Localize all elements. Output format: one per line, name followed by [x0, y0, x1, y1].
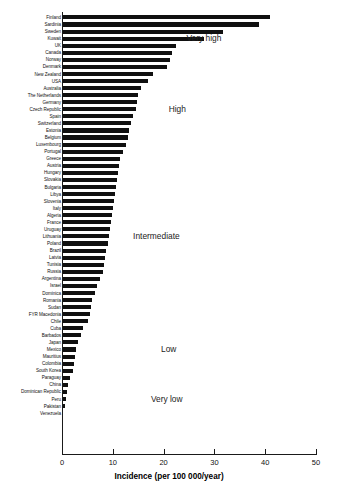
bar-row: Algeria [0, 212, 338, 219]
bar [62, 234, 109, 238]
x-axis-tick [113, 449, 114, 455]
bar-row: Greece [0, 155, 338, 162]
bar-row: The Netherlands [0, 92, 338, 99]
bar-category-label: Kuwait [48, 35, 62, 42]
bar-row: Belgium [0, 134, 338, 141]
bar-row: Luxembourg [0, 141, 338, 148]
bar-category-label: Switzerland [38, 120, 61, 127]
bar-category-label: Estonia [46, 127, 61, 134]
bar-category-label: Denmark [43, 63, 61, 70]
bar-row: Brazil [0, 247, 338, 254]
bar-category-label: Sweden [45, 28, 61, 35]
annotation-label: High [169, 104, 186, 114]
bar-category-label: Australia [44, 85, 61, 92]
bar-row: Sudan [0, 304, 338, 311]
bar [62, 164, 119, 168]
bar-category-label: Israel [50, 282, 61, 289]
bar-category-label: Bulgaria [45, 184, 61, 191]
bar-category-label: Canada [45, 49, 61, 56]
bar [62, 298, 92, 302]
bar-category-label: Italy [53, 205, 61, 212]
bar-category-label: Mauritius [43, 353, 61, 360]
annotation-label: Very low [151, 394, 183, 404]
bar [62, 100, 137, 104]
bar-category-label: FYR Macedonia [29, 311, 61, 318]
bar-category-label: Hungary [44, 169, 61, 176]
bar [62, 65, 167, 69]
bar-category-label: Romania [43, 297, 61, 304]
bar-row: Finland [0, 14, 338, 21]
bar-category-label: UK [55, 42, 61, 49]
bar [62, 263, 104, 267]
bar-category-label: Chile [51, 318, 61, 325]
bar [62, 58, 170, 62]
bar-row: Chile [0, 318, 338, 325]
bar-category-label: Slovenia [44, 198, 61, 205]
bar-category-label: Czech Republic [30, 106, 61, 113]
bar-category-label: France [47, 219, 61, 226]
bar-category-label: Belgium [45, 134, 61, 141]
bar-row: Pakistan [0, 403, 338, 410]
annotation-label: Very high [186, 33, 221, 43]
x-axis-tick [164, 449, 165, 455]
bar [62, 347, 76, 351]
bar [62, 326, 83, 330]
bar-row: Slovakia [0, 176, 338, 183]
x-axis-tick-label: 50 [301, 458, 331, 467]
bar [62, 107, 136, 111]
bar-category-label: Slovakia [44, 176, 61, 183]
bar [62, 114, 133, 118]
bar-category-label: Greece [46, 155, 61, 162]
bar [62, 22, 259, 26]
bar-category-label: Paraguay [42, 374, 61, 381]
bar [62, 150, 123, 154]
bar-category-label: Japan [49, 339, 61, 346]
bar [62, 319, 88, 323]
bar [62, 355, 75, 359]
bar-category-label: Venezuela [40, 410, 61, 417]
bar-row: Cuba [0, 325, 338, 332]
x-axis-tick [214, 449, 215, 455]
bar-row: Paraguay [0, 374, 338, 381]
x-axis-tick-label: 40 [250, 458, 280, 467]
bar-category-label: Barbados [42, 332, 61, 339]
bar [62, 185, 116, 189]
x-axis-tick-label: 10 [98, 458, 128, 467]
bar [62, 15, 270, 19]
bar [62, 79, 148, 83]
plot-area: FinlandSardiniaSwedenKuwaitUKCanadaNorwa… [0, 0, 338, 493]
bar-category-label: Mexico [47, 346, 61, 353]
bar-category-label: Luxembourg [36, 141, 61, 148]
bar-row: Slovenia [0, 198, 338, 205]
bar-category-label: Germany [42, 99, 61, 106]
bar [62, 93, 138, 97]
bar-category-label: Peru [51, 396, 61, 403]
bar-category-label: USA [52, 78, 61, 85]
bar [62, 44, 176, 48]
bar-category-label: Algeria [47, 212, 61, 219]
bar [62, 362, 74, 366]
annotation-label: Intermediate [133, 231, 180, 241]
bar-category-label: Latvia [49, 254, 61, 261]
bar-row: China [0, 381, 338, 388]
bar-row: UK [0, 42, 338, 49]
bar-category-label: Tunisia [47, 261, 61, 268]
bar-category-label: Libya [50, 191, 61, 198]
bar-row: Estonia [0, 127, 338, 134]
bar-row: Latvia [0, 254, 338, 261]
bar-category-label: Dominica [42, 290, 61, 297]
bar-category-label: Pakistan [44, 403, 61, 410]
bar [62, 213, 112, 217]
bar [62, 333, 81, 337]
bar-category-label: Sudan [48, 304, 61, 311]
bar-category-label: Lithuania [43, 233, 61, 240]
bar-row: New Zealand [0, 71, 338, 78]
bar-row: Romania [0, 297, 338, 304]
bar [62, 86, 141, 90]
bar [62, 171, 118, 175]
bar-category-label: Russia [47, 268, 61, 275]
bar-row: Norway [0, 56, 338, 63]
bar-row: Spain [0, 113, 338, 120]
bar-category-label: China [49, 381, 61, 388]
x-axis-tick-label: 30 [199, 458, 229, 467]
